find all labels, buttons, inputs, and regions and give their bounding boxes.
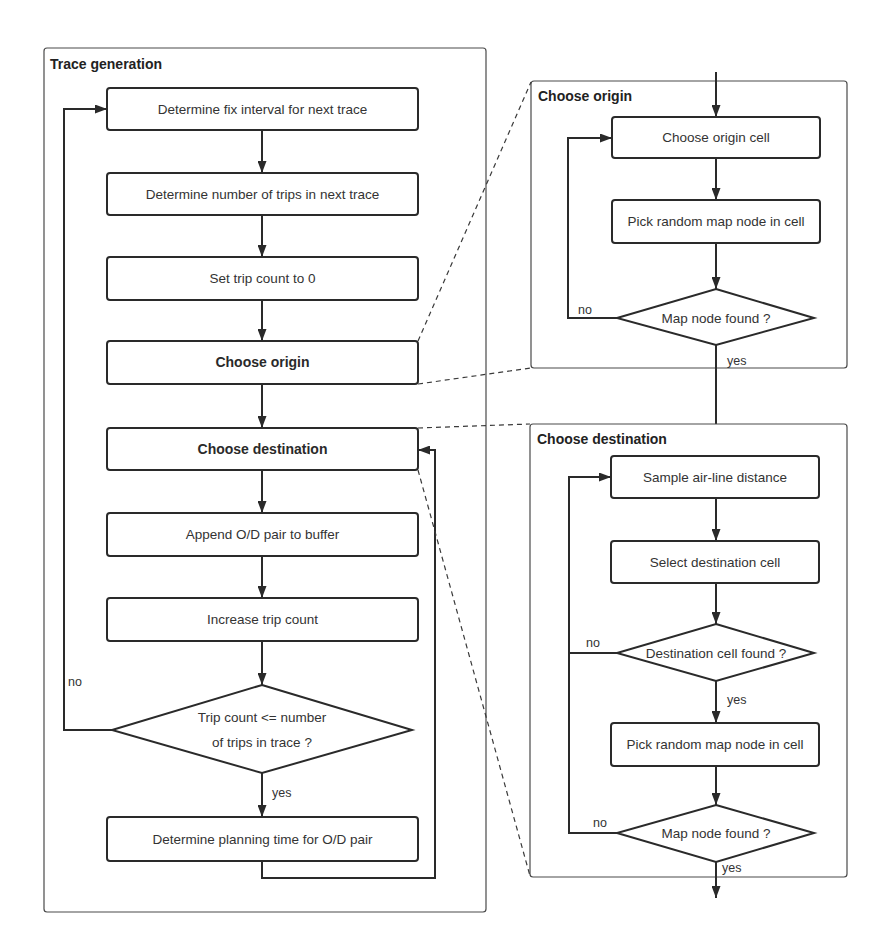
step-box-select-destination-cell: Select destination cell	[611, 541, 819, 583]
choose-destination-panel: Choose destination Sample air-line dista…	[530, 424, 847, 877]
yes-label: yes	[727, 354, 746, 368]
step-box-append-od-pair: Append O/D pair to buffer	[107, 513, 418, 556]
decision-label-line1: Trip count <= number	[198, 710, 327, 725]
step-label: Determine planning time for O/D pair	[153, 832, 373, 847]
no-label: no	[578, 303, 592, 317]
flowchart-diagram: Trace generation Determine fix interval …	[0, 0, 889, 952]
step-label: Sample air-line distance	[643, 470, 787, 485]
decision-label: Map node found ?	[662, 826, 771, 841]
choose-origin-title: Choose origin	[538, 88, 632, 104]
step-label: Choose origin cell	[662, 130, 769, 145]
step-box-choose-origin: Choose origin	[107, 341, 418, 384]
step-box-pick-random-node: Pick random map node in cell	[612, 200, 820, 243]
step-label: Determine number of trips in next trace	[146, 187, 379, 202]
step-label: Choose origin	[215, 354, 309, 370]
step-box-sample-distance: Sample air-line distance	[611, 456, 819, 498]
step-box-pick-random-node: Pick random map node in cell	[611, 723, 819, 766]
step-box-set-trip-count: Set trip count to 0	[107, 257, 418, 300]
step-label: Append O/D pair to buffer	[186, 527, 340, 542]
step-box-planning-time: Determine planning time for O/D pair	[107, 817, 418, 861]
step-label: Pick random map node in cell	[627, 214, 804, 229]
step-box-choose-destination: Choose destination	[107, 428, 418, 470]
step-label: Select destination cell	[650, 555, 781, 570]
decision-label: Map node found ?	[662, 311, 771, 326]
decision-label-line2: of trips in trace ?	[212, 735, 312, 750]
step-box-number-of-trips: Determine number of trips in next trace	[107, 173, 418, 215]
trace-generation-title: Trace generation	[50, 56, 162, 72]
decision-label: Destination cell found ?	[646, 646, 786, 661]
trace-generation-panel: Trace generation Determine fix interval …	[44, 48, 486, 912]
step-label: Choose destination	[198, 441, 328, 457]
step-label: Pick random map node in cell	[626, 737, 803, 752]
yes-label: yes	[272, 786, 291, 800]
choose-destination-title: Choose destination	[537, 431, 667, 447]
step-box-increase-trip-count: Increase trip count	[107, 598, 418, 641]
yes-label: yes	[727, 693, 746, 707]
no-label: no	[586, 636, 600, 650]
step-box-fix-interval: Determine fix interval for next trace	[107, 88, 418, 130]
no-label: no	[68, 675, 82, 689]
step-label: Set trip count to 0	[210, 271, 316, 286]
no-label: no	[593, 816, 607, 830]
step-label: Increase trip count	[207, 612, 318, 627]
step-label: Determine fix interval for next trace	[158, 102, 367, 117]
step-box-choose-origin-cell: Choose origin cell	[612, 117, 820, 158]
choose-origin-panel: Choose origin Choose origin cell Pick ra…	[531, 72, 847, 368]
yes-label: yes	[722, 861, 741, 875]
